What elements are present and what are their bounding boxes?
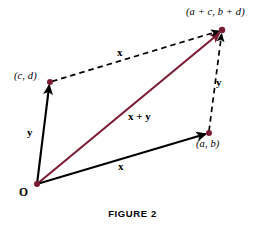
point-dot-ab <box>206 130 212 136</box>
figure-caption: FIGURE 2 <box>0 208 265 219</box>
figure-container: (a + c, b + d) (c, d) (a, b) O x y x + y… <box>0 0 265 229</box>
point-dot-origin <box>34 181 40 187</box>
vector-line-y-left <box>37 86 49 185</box>
vector-label-y-left: y <box>27 127 33 138</box>
vector-line-x-top <box>52 31 219 81</box>
vector-line-x-bottom <box>37 134 206 184</box>
point-dot-sum <box>219 27 225 33</box>
point-label-cd: (c, d) <box>14 71 37 82</box>
point-label-origin: O <box>19 187 28 199</box>
vector-label-resultant: x + y <box>128 111 151 122</box>
vector-label-y-right: y <box>216 77 222 88</box>
point-label-ab: (a, b) <box>196 139 219 150</box>
point-dot-cd <box>47 79 53 85</box>
point-label-sum: (a + c, b + d) <box>186 7 245 18</box>
vector-line-resultant <box>37 33 220 184</box>
vector-label-x-top: x <box>117 47 123 58</box>
vector-label-x-bottom: x <box>118 161 124 172</box>
